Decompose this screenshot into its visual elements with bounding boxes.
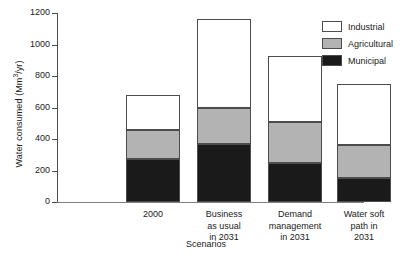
bar-segment-agricultural bbox=[268, 122, 322, 163]
y-axis-tick-label: 600 bbox=[35, 102, 50, 112]
x-axis-tick-label: Water soft path in 2031 bbox=[316, 209, 410, 244]
bar-segment-agricultural bbox=[197, 108, 251, 144]
bar-segment-municipal bbox=[337, 178, 391, 202]
bar-segment-industrial bbox=[268, 56, 322, 123]
y-axis-tick-label: 200 bbox=[35, 165, 50, 175]
y-axis-title-prefix: Water consumed (Mm bbox=[14, 78, 24, 168]
legend-swatch-municipal bbox=[322, 55, 342, 66]
legend-label: Municipal bbox=[348, 56, 386, 66]
bar-group bbox=[197, 19, 251, 202]
y-axis-tick-label: 1000 bbox=[30, 39, 50, 49]
bar-group bbox=[126, 95, 180, 202]
stacked-bar-chart: Water consumed (Mm3/yr) 0200400600800100… bbox=[0, 0, 410, 259]
bar-segment-municipal bbox=[268, 163, 322, 202]
y-axis-tick-label: 400 bbox=[35, 133, 50, 143]
bar-segment-agricultural bbox=[126, 130, 180, 159]
bar-segment-municipal bbox=[197, 144, 251, 202]
y-axis-tick: 0 bbox=[52, 202, 57, 203]
x-axis-title: Scenarios bbox=[186, 239, 226, 249]
chart-legend: IndustrialAgriculturalMunicipal bbox=[322, 18, 393, 69]
legend-label: Agricultural bbox=[348, 39, 393, 49]
y-axis-tick-label: 1200 bbox=[30, 7, 50, 17]
y-axis-title-superscript: 3 bbox=[12, 74, 19, 78]
bar-segment-agricultural bbox=[337, 145, 391, 178]
bars-layer bbox=[57, 13, 364, 202]
legend-item: Agricultural bbox=[322, 35, 393, 52]
bar-group bbox=[268, 56, 322, 202]
legend-item: Municipal bbox=[322, 52, 393, 69]
y-axis-tick-label: 800 bbox=[35, 70, 50, 80]
legend-swatch-industrial bbox=[322, 21, 342, 32]
y-axis-title-suffix: /yr) bbox=[14, 60, 24, 73]
bar-segment-industrial bbox=[126, 95, 180, 130]
x-axis-line bbox=[57, 202, 364, 203]
bar-segment-municipal bbox=[126, 159, 180, 202]
bar-segment-industrial bbox=[197, 19, 251, 108]
bar-group bbox=[337, 84, 391, 202]
plot-area: 020040060080010001200 2000Business as us… bbox=[57, 13, 364, 202]
legend-swatch-agricultural bbox=[322, 38, 342, 49]
y-axis-tick-label: 0 bbox=[45, 196, 50, 206]
y-axis-title: Water consumed (Mm3/yr) bbox=[12, 34, 24, 194]
legend-label: Industrial bbox=[348, 22, 385, 32]
legend-item: Industrial bbox=[322, 18, 393, 35]
bar-segment-industrial bbox=[337, 84, 391, 145]
